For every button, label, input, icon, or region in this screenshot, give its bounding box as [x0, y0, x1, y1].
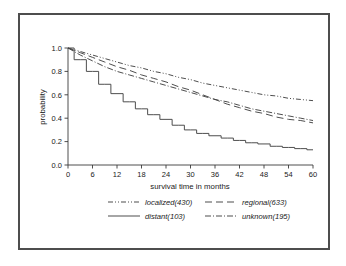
legend-label-distant: distant(103)	[145, 212, 186, 221]
plot-area: 0.0 0.2 0.4 0.6 0.8 1.0 0 6 12 18	[0, 0, 346, 266]
x-tick-label: 36	[211, 170, 219, 179]
y-tick-label: 0.4	[52, 114, 62, 123]
y-tick-label: 0.0	[52, 161, 62, 170]
x-tick-label: 30	[186, 170, 194, 179]
x-tick-label: 24	[162, 170, 170, 179]
y-axis-title: probability	[38, 89, 47, 125]
legend-label-unknown: unknown(195)	[242, 212, 291, 221]
y-tick-label: 1.0	[52, 44, 62, 53]
x-tick-labels: 0 6 12 18 24 30 36 42 48 54 60	[66, 170, 317, 179]
legend: localized(430) regional(633) distant(103…	[108, 198, 291, 221]
x-tick-label: 60	[309, 170, 317, 179]
y-tick-label: 0.8	[52, 67, 62, 76]
y-tick-marks	[65, 48, 69, 165]
y-tick-label: 0.6	[52, 91, 62, 100]
x-tick-label: 12	[113, 170, 121, 179]
curve-regional	[68, 48, 313, 123]
x-tick-label: 42	[235, 170, 243, 179]
x-tick-label: 48	[260, 170, 268, 179]
y-tick-label: 0.2	[52, 137, 62, 146]
x-tick-label: 6	[90, 170, 94, 179]
y-tick-labels: 0.0 0.2 0.4 0.6 0.8 1.0	[52, 44, 62, 170]
x-tick-marks	[68, 165, 313, 169]
legend-label-localized: localized(430)	[145, 198, 193, 207]
curve-distant	[68, 48, 313, 150]
x-tick-label: 54	[284, 170, 292, 179]
survival-curve-figure: 0.0 0.2 0.4 0.6 0.8 1.0 0 6 12 18	[0, 0, 346, 266]
data-curves	[68, 48, 313, 150]
x-tick-label: 0	[66, 170, 70, 179]
x-axis-title: survival time in months	[150, 182, 229, 191]
x-tick-label: 18	[137, 170, 145, 179]
legend-label-regional: regional(633)	[242, 198, 287, 207]
curve-localized	[68, 48, 313, 101]
